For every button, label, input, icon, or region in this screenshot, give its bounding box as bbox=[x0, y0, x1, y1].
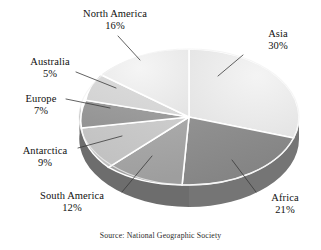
slice-label-australia-percent: 5% bbox=[12, 68, 88, 80]
slice-label-australia: Australia 5% bbox=[12, 56, 88, 79]
slice-label-asia: Asia 30% bbox=[245, 28, 311, 51]
pie-chart-figure: North America 16% Asia 30% Australia 5% … bbox=[0, 0, 321, 250]
slice-label-south-america-percent: 12% bbox=[20, 202, 124, 214]
slice-label-europe: Europe 7% bbox=[6, 93, 76, 116]
slice-label-africa-percent: 21% bbox=[255, 204, 315, 216]
leader-line-north-america bbox=[118, 36, 140, 60]
slice-label-africa: Africa 21% bbox=[255, 192, 315, 215]
slice-label-antarctica-name: Antarctica bbox=[2, 145, 88, 157]
slice-label-antarctica: Antarctica 9% bbox=[2, 145, 88, 168]
slice-label-africa-name: Africa bbox=[255, 192, 315, 204]
slice-label-australia-name: Australia bbox=[12, 56, 88, 68]
slice-label-europe-percent: 7% bbox=[6, 105, 76, 117]
slice-label-asia-percent: 30% bbox=[245, 40, 311, 52]
slice-label-asia-name: Asia bbox=[245, 28, 311, 40]
slice-label-north-america-percent: 16% bbox=[60, 20, 170, 32]
slice-label-south-america: South America 12% bbox=[20, 190, 124, 213]
pie-top-face bbox=[81, 49, 299, 185]
slice-label-north-america: North America 16% bbox=[60, 8, 170, 31]
source-caption: Source: National Geographic Society bbox=[0, 231, 321, 240]
slice-label-antarctica-percent: 9% bbox=[2, 157, 88, 169]
slice-label-south-america-name: South America bbox=[20, 190, 124, 202]
slice-label-north-america-name: North America bbox=[60, 8, 170, 20]
slice-label-europe-name: Europe bbox=[6, 93, 76, 105]
